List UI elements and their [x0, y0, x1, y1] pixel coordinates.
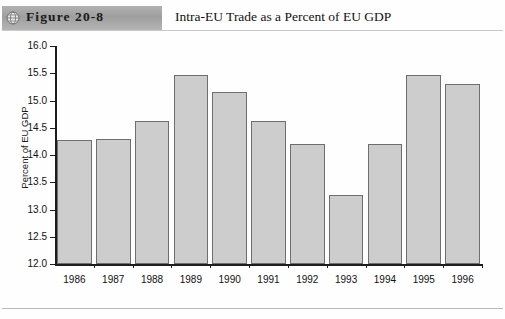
footer-divider — [2, 308, 503, 309]
y-tick-label: 14.0 — [13, 149, 47, 160]
bar-chart: Percent of EU GDP 16.015.515.014.514.013… — [0, 38, 505, 306]
y-tick-mark — [50, 237, 55, 238]
y-tick-mark — [50, 128, 55, 129]
bar — [57, 140, 92, 264]
x-tick-label: 1990 — [210, 274, 249, 285]
x-tick-label: 1989 — [171, 274, 210, 285]
y-tick-mark — [50, 155, 55, 156]
bar — [96, 139, 131, 264]
x-tick-label: 1986 — [55, 274, 94, 285]
y-tick-label: 15.0 — [13, 95, 47, 106]
y-tick-mark — [50, 46, 55, 47]
bar — [329, 195, 364, 264]
x-tick-label: 1991 — [249, 274, 288, 285]
bar — [251, 121, 286, 264]
figure-container: Figure 20-8 Intra-EU Trade as a Percent … — [0, 0, 505, 319]
y-tick-label: 15.5 — [13, 67, 47, 78]
x-axis-line — [55, 264, 482, 266]
y-tick-mark — [50, 73, 55, 74]
x-tick-label: 1987 — [94, 274, 133, 285]
y-tick-mark — [50, 101, 55, 102]
y-tick-label: 12.0 — [13, 258, 47, 269]
bar — [445, 84, 480, 264]
y-tick-label: 16.0 — [13, 40, 47, 51]
bar — [406, 75, 441, 264]
figure-number: Figure 20-8 — [26, 9, 104, 25]
x-tick-label: 1988 — [133, 274, 172, 285]
figure-header: Figure 20-8 Intra-EU Trade as a Percent … — [0, 6, 505, 31]
bar — [212, 92, 247, 264]
x-tick-label: 1996 — [443, 274, 482, 285]
x-tick-label: 1994 — [366, 274, 405, 285]
x-tick-label: 1992 — [288, 274, 327, 285]
bar — [174, 75, 209, 264]
figure-title: Intra-EU Trade as a Percent of EU GDP — [175, 9, 391, 25]
bar — [368, 144, 403, 264]
y-tick-mark — [50, 182, 55, 183]
globe-icon — [6, 11, 20, 25]
x-tick-mark — [482, 264, 483, 268]
x-tick-label: 1993 — [327, 274, 366, 285]
bar — [135, 121, 170, 264]
header-divider — [2, 30, 503, 31]
bar — [290, 144, 325, 264]
y-tick-label: 13.0 — [13, 204, 47, 215]
y-tick-mark — [50, 210, 55, 211]
y-tick-label: 14.5 — [13, 122, 47, 133]
y-tick-label: 13.5 — [13, 176, 47, 187]
y-tick-label: 12.5 — [13, 231, 47, 242]
x-tick-label: 1995 — [404, 274, 443, 285]
